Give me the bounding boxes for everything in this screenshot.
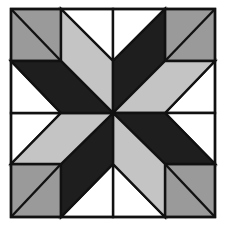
quilt-block-diagram <box>0 0 229 235</box>
